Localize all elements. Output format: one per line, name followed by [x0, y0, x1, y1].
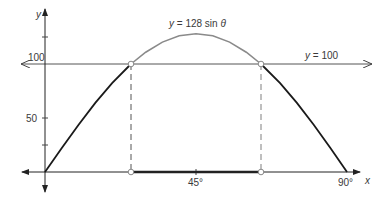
line-label: y = 100: [304, 50, 339, 61]
interval-endpoint-right: [258, 169, 264, 175]
chart: y x 100 50 45° 90° y = 128 sin θ y = 100: [0, 0, 390, 200]
x-axis-label: x: [364, 175, 371, 186]
intersection-point-left: [128, 61, 134, 67]
curve-lower-left: [45, 64, 131, 172]
curve-upper: [131, 34, 261, 64]
curve-lower-right: [261, 64, 347, 172]
tick-label-100: 100: [28, 52, 45, 63]
tick-label-50: 50: [26, 113, 38, 124]
interval-endpoint-left: [128, 169, 134, 175]
intersection-point-right: [258, 61, 264, 67]
y-axis-label: y: [35, 9, 42, 20]
tick-label-90: 90°: [338, 177, 353, 188]
curve-label: y = 128 sin θ: [168, 18, 226, 29]
tick-label-45: 45°: [188, 177, 203, 188]
